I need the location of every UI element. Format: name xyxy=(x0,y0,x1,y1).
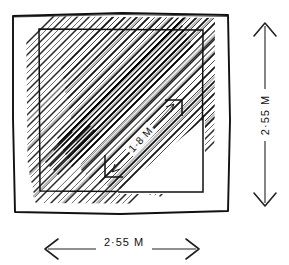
technical-drawing-canvas: 1·8 M 2·55 M 2·55 M xyxy=(0,0,289,265)
horizontal-dimension: 2·55 M xyxy=(45,235,199,259)
vertical-dimension: 2·55 M xyxy=(254,23,276,206)
drawing-root: 1·8 M 2·55 M 2·55 M xyxy=(0,0,289,265)
vertical-dimension-label: 2·55 M xyxy=(259,95,271,135)
horizontal-dimension-label: 2·55 M xyxy=(104,236,144,248)
diagonal-hatch-fill xyxy=(10,12,248,212)
